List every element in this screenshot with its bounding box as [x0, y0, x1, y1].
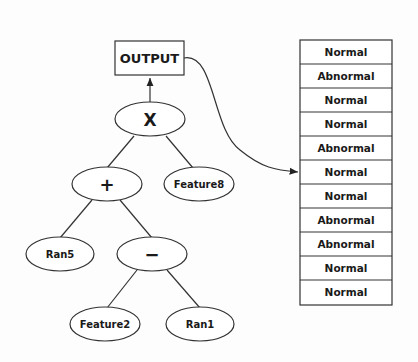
edge-plus-ran5: [60, 200, 92, 238]
column-row: Normal: [325, 286, 368, 298]
svg-text:Abnormal: Abnormal: [317, 238, 374, 250]
svg-text:Normal: Normal: [325, 118, 368, 130]
edge-x-plus: [107, 136, 134, 168]
node-ran5: Ran5: [26, 237, 94, 271]
edge-plus-minus: [120, 200, 152, 238]
output-to-column-arrow: [184, 58, 298, 172]
node-label: Ran5: [46, 249, 75, 260]
svg-text:Normal: Normal: [325, 46, 368, 58]
svg-text:Normal: Normal: [325, 166, 368, 178]
edge-minus-feature2: [107, 270, 137, 308]
output-label: OUTPUT: [120, 51, 180, 66]
node-feature8: Feature8: [164, 167, 234, 201]
node-minus: −: [117, 237, 187, 271]
node-label: −: [144, 244, 159, 265]
svg-text:Normal: Normal: [325, 94, 368, 106]
node-label: Feature8: [174, 179, 225, 190]
svg-text:Normal: Normal: [325, 190, 368, 202]
node-ran1: Ran1: [166, 307, 234, 341]
svg-text:Abnormal: Abnormal: [317, 70, 374, 82]
node-label: Feature2: [80, 319, 131, 330]
edge-x-feature8: [166, 136, 193, 168]
svg-text:Normal: Normal: [325, 286, 368, 298]
node-label: Ran1: [186, 319, 215, 330]
svg-text:Abnormal: Abnormal: [317, 214, 374, 226]
node-label: X: [143, 110, 156, 130]
edge-minus-ran1: [167, 270, 200, 308]
output-column: Normal Abnormal Normal Normal Abnormal N…: [300, 40, 392, 305]
node-plus: +: [72, 167, 142, 201]
gp-tree-diagram: OUTPUT X + Feature8 Ran5 − Feature2: [0, 0, 418, 362]
output-node: OUTPUT: [115, 41, 184, 75]
svg-text:Normal: Normal: [325, 262, 368, 274]
node-feature2: Feature2: [70, 307, 140, 341]
svg-text:Abnormal: Abnormal: [317, 142, 374, 154]
node-x: X: [115, 102, 185, 136]
node-label: +: [99, 174, 114, 195]
